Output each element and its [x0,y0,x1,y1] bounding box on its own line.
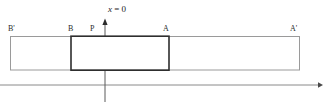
arrow-up-icon [102,19,107,26]
point-label-a: A [163,25,169,33]
axis-label-value: 0 [122,4,127,14]
geometry-figure: x = 0 B' B P A A' [0,0,325,102]
figure-canvas [0,0,325,102]
vertical-axis-label: x = 0 [108,5,126,14]
horizontal-axis [0,82,323,88]
point-label-b: B [68,25,73,33]
outer-interval-rect [11,37,300,71]
arrow-right-icon [318,82,323,88]
point-label-p: P [90,25,94,33]
point-label-a-prime: A' [290,25,297,33]
axis-label-equals: = [112,4,122,14]
point-label-b-prime: B' [8,25,15,33]
